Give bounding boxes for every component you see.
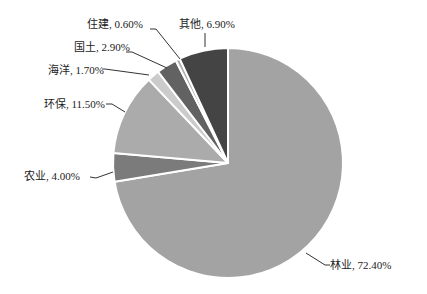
leader-line-5 [150, 29, 180, 59]
pie-slices [113, 48, 343, 278]
label-forestry: 林业, 72.40% [330, 259, 391, 271]
label-land: 国土, 2.90% [74, 41, 130, 53]
label-other: 其他, 6.90% [179, 18, 235, 30]
label-environment: 环保, 11.50% [44, 98, 105, 110]
leader-line-4 [126, 52, 167, 68]
label-ocean: 海洋, 1.70% [48, 64, 104, 76]
label-housing: 住建, 0.60% [87, 18, 143, 30]
leader-line-0 [306, 253, 330, 265]
leader-line-2 [106, 104, 125, 112]
leader-line-3 [102, 69, 149, 75]
label-agriculture: 农业, 4.00% [24, 170, 80, 182]
pie-chart [0, 0, 427, 294]
leader-line-1 [90, 172, 113, 178]
